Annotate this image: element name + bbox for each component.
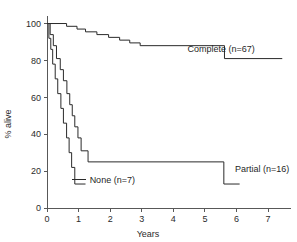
y-tick-label: 20 xyxy=(31,166,41,176)
series-label-2: Partial (n=16) xyxy=(235,164,289,174)
y-tick-label: 0 xyxy=(36,203,41,213)
x-axis-title: Years xyxy=(137,229,160,239)
x-tick-label: 7 xyxy=(266,214,271,224)
x-tick-label: 3 xyxy=(139,214,144,224)
y-tick-label: 80 xyxy=(31,56,41,66)
y-axis-title: % alive xyxy=(3,109,13,138)
series-annotations: Complete (n=67)Partial (n=16)None (n=7) xyxy=(72,44,290,185)
x-tick-label: 6 xyxy=(234,214,239,224)
x-tick-label: 1 xyxy=(76,214,81,224)
km-curve-3 xyxy=(47,24,86,184)
survival-chart: 02040608010001234567 Complete (n=67)Part… xyxy=(0,0,297,242)
y-tick-label: 60 xyxy=(31,93,41,103)
y-tick-label: 40 xyxy=(31,129,41,139)
y-tick-label: 100 xyxy=(26,19,41,29)
series-label-1: Complete (n=67) xyxy=(188,44,255,54)
x-tick-label: 5 xyxy=(202,214,207,224)
series-label-3: None (n=7) xyxy=(90,175,135,185)
chart-canvas: 02040608010001234567 Complete (n=67)Part… xyxy=(0,0,297,242)
x-tick-label: 0 xyxy=(44,214,49,224)
x-tick-label: 4 xyxy=(171,214,176,224)
x-tick-label: 2 xyxy=(108,214,113,224)
